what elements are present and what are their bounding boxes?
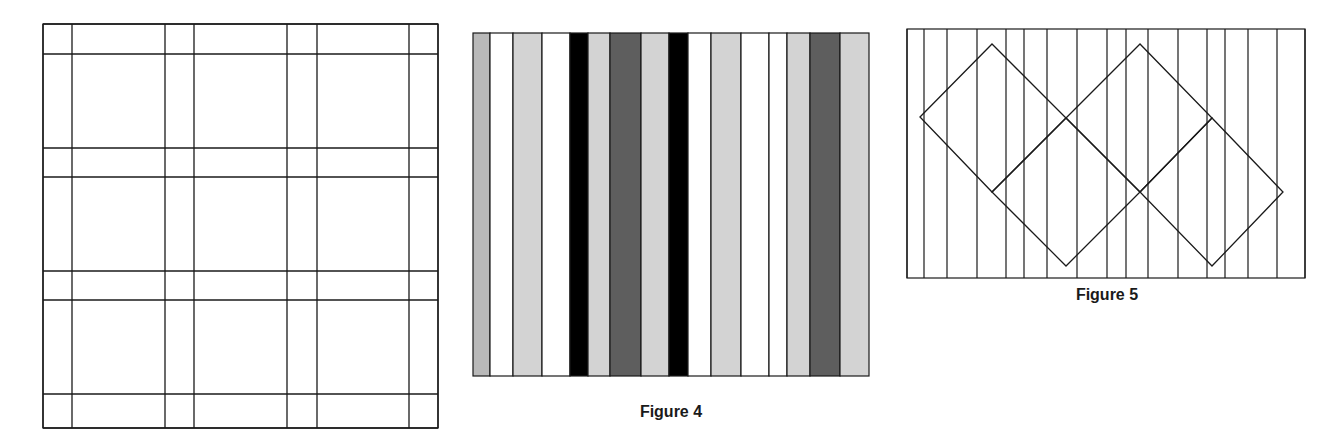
stripe [473, 33, 490, 376]
stripe [769, 33, 787, 376]
grid-frame [43, 24, 438, 428]
plaid-grid-drawing [0, 0, 1341, 440]
figure-4-caption: Figure 4 [571, 403, 771, 421]
stripe [669, 33, 688, 376]
stripe [610, 33, 641, 376]
figure-5-caption: Figure 5 [1027, 286, 1187, 304]
stripe [588, 33, 610, 376]
figure-3-plaid-grid [0, 0, 1341, 440]
stripe [641, 33, 669, 376]
stripe [840, 33, 869, 376]
stripe [688, 33, 711, 376]
stripe [570, 33, 588, 376]
stripe [810, 33, 840, 376]
stripe [542, 33, 570, 376]
stripe [787, 33, 810, 376]
stripe [513, 33, 542, 376]
stripe [741, 33, 769, 376]
stripe [490, 33, 513, 376]
stripe [711, 33, 741, 376]
